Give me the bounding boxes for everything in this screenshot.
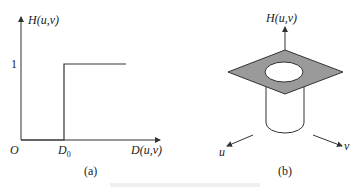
step-function-curve	[21, 64, 126, 140]
plane-with-hole	[228, 50, 343, 94]
v-axis-arrow	[313, 135, 342, 146]
caption-b: (b)	[278, 164, 292, 178]
y-tick-label-1: 1	[11, 57, 17, 71]
cylinder-bottom-arc	[266, 123, 304, 133]
origin-label: O	[10, 143, 19, 157]
u-axis-label: u	[219, 145, 225, 159]
caption-a: (a)	[84, 164, 97, 178]
panel-a: H(u,v) 1 O D0 D(u,v) (a)	[10, 13, 162, 178]
h-axis-label: H(u,v)	[265, 11, 297, 25]
x-axis-label: D(u,v)	[130, 143, 162, 157]
u-axis-arrow	[227, 135, 253, 146]
figure: H(u,v) 1 O D0 D(u,v) (a) H(u,v) u v (b)	[0, 0, 360, 189]
panel-b: H(u,v) u v (b)	[219, 11, 350, 178]
y-axis-label: H(u,v)	[27, 13, 59, 27]
x-tick-label-d0: D0	[57, 143, 71, 159]
v-axis-label: v	[344, 139, 350, 153]
figure-caption-faint	[110, 183, 260, 187]
